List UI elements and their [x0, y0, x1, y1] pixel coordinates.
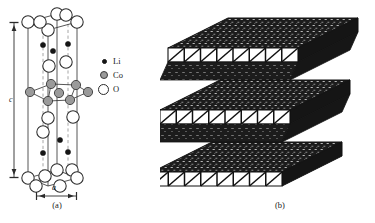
cobalt-atoms: [25, 79, 92, 105]
panel-a-unit-cell: c a Li Co O (a): [0, 0, 160, 223]
legend-label-co: Co: [113, 71, 123, 80]
dimension-arrow-a: [36, 192, 77, 200]
oxygen-atoms-top: [22, 8, 83, 36]
co-atom-icon: [100, 71, 108, 79]
atom-legend: Li Co O: [98, 54, 123, 96]
legend-label-o: O: [113, 85, 119, 94]
legend-item-o: O: [98, 82, 123, 96]
panel-a-caption: (a): [42, 200, 72, 210]
lattice-parameter-c-label: c: [9, 95, 13, 104]
figure-licoo2-structure: c a Li Co O (a): [0, 0, 375, 223]
octahedral-slab-bottom: [160, 142, 342, 186]
legend-label-li: Li: [113, 57, 121, 66]
o-atom-icon: [98, 84, 109, 95]
lattice-parameter-a-label: a: [52, 183, 56, 192]
panel-b-caption: (b): [260, 200, 300, 210]
octahedral-slab-drawing: [160, 0, 375, 200]
lithium-atoms-upper: [40, 41, 70, 53]
li-atom-icon: [102, 59, 107, 64]
panel-b-layered-octahedra: (b): [160, 0, 375, 223]
lithium-atoms-lower: [40, 137, 70, 155]
legend-item-li: Li: [98, 54, 123, 68]
unit-cell-drawing: [0, 0, 160, 200]
oxygen-atoms-upper-mid: [43, 56, 72, 72]
legend-item-co: Co: [98, 68, 123, 82]
